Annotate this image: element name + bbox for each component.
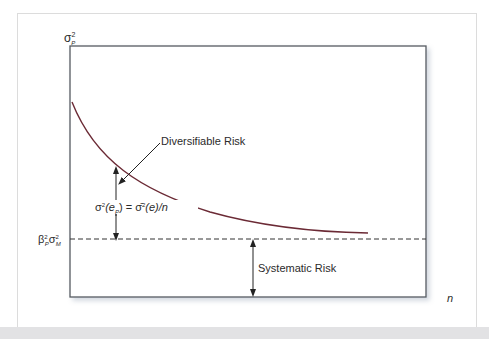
y-axis-label: σ2P — [64, 31, 75, 46]
risk-diversification-diagram: σ2P β2Pσ2M Diversifiable Risk σ2(eP) = σ… — [0, 0, 489, 339]
idiosyncratic-variance-formula: σ2(eP) = σ̄2(e)/n — [95, 201, 168, 215]
baseline-label: β2Pσ2M — [38, 233, 61, 247]
systematic-risk-label: Systematic Risk — [258, 262, 337, 274]
diversifiable-risk-label: Diversifiable Risk — [161, 135, 246, 147]
plot-area — [70, 46, 426, 297]
x-axis-label: n — [447, 292, 453, 304]
